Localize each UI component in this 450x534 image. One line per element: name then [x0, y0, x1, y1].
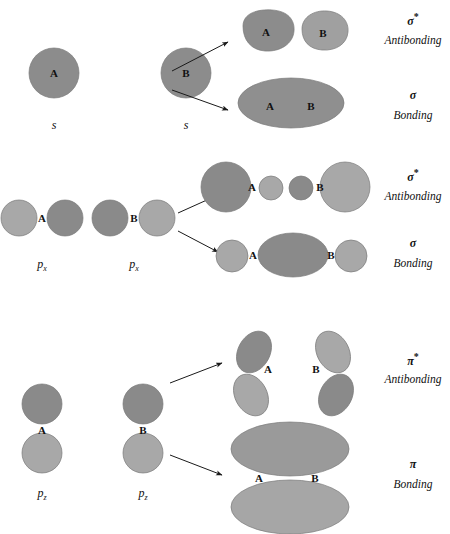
pz-antibonding-b-bottom-lobe	[312, 368, 361, 422]
s-bonding-lobe	[238, 78, 344, 128]
label-s-antibonding-a: A	[262, 26, 270, 38]
label-s-atom-a: A	[50, 67, 58, 79]
row-pz-arrows	[170, 363, 222, 475]
pz-orbital-a-bottom-lobe	[22, 433, 62, 473]
label-bonding-px: Bonding	[394, 257, 433, 269]
row-pz-bonding-mo	[231, 422, 349, 534]
caption-s-orbital-a: s	[52, 118, 57, 133]
label-pi-pz: π	[410, 457, 417, 472]
px-antibonding-a-outer-lobe	[201, 162, 251, 212]
label-antibonding-pz: Antibonding	[385, 373, 442, 385]
px-antibonding-b-outer-lobe	[320, 162, 370, 212]
px-antibonding-b-inner-lobe	[289, 176, 313, 200]
label-s-antibonding-b: B	[319, 27, 327, 39]
caption-px-orbital-a: px	[37, 257, 47, 273]
arrow-pz-antibonding	[170, 363, 222, 383]
arrow-pz-bonding	[170, 455, 222, 475]
px-bonding-b-outer-lobe	[335, 240, 367, 272]
label-bonding-s: Bonding	[394, 109, 433, 121]
label-pz-antibonding-a: A	[264, 363, 272, 375]
caption-px-orbital-b: px	[129, 257, 139, 273]
px-orbital-b-left-lobe	[92, 200, 128, 236]
pz-a-subscript: z	[43, 493, 46, 502]
label-sigma-s: σ	[410, 88, 416, 103]
px-orbital-b-right-lobe	[139, 200, 175, 236]
label-pi-star-pz: π*	[407, 351, 419, 369]
row-px-antibonding-mo	[201, 162, 370, 212]
sigma-glyph: σ	[410, 236, 416, 250]
pz-b-subscript: z	[144, 493, 147, 502]
pz-orbital-b-bottom-lobe	[123, 433, 163, 473]
arrow-px-bonding	[178, 231, 218, 252]
label-px-antibonding-b: B	[316, 181, 324, 193]
label-s-atom-b: B	[182, 67, 190, 79]
pz-bonding-bottom-lobe	[231, 480, 349, 534]
label-pz-bonding-b: B	[311, 472, 319, 484]
label-px-antibonding-a: A	[248, 181, 256, 193]
row-s-bonding-mo	[238, 78, 344, 128]
pz-bonding-top-lobe	[231, 422, 349, 476]
label-px-atom-a: A	[38, 212, 46, 224]
star-glyph: *	[414, 167, 419, 178]
label-pz-antibonding-b: B	[312, 363, 320, 375]
label-bonding-pz: Bonding	[394, 478, 433, 490]
label-antibonding-px: Antibonding	[385, 190, 442, 202]
pz-antibonding-a-bottom-lobe	[227, 368, 276, 422]
row-px-bonding-mo	[216, 233, 367, 277]
label-px-bonding-b: B	[327, 249, 335, 261]
row-s-antibonding-mo	[243, 10, 348, 51]
label-pz-atom-a: A	[38, 424, 46, 436]
label-sigma-star-px: σ*	[407, 167, 418, 185]
sigma-glyph: σ	[410, 88, 416, 102]
px-bonding-a-outer-lobe	[216, 240, 248, 272]
orbital-diagram	[0, 0, 450, 534]
label-pz-atom-b: B	[139, 424, 147, 436]
pi-glyph: π	[410, 457, 417, 471]
px-b-subscript: x	[135, 264, 139, 273]
px-bonding-central-lobe	[258, 233, 328, 277]
row-px-atomic-orbitals	[1, 200, 175, 236]
label-antibonding-s: Antibonding	[385, 34, 442, 46]
pz-orbital-b-top-lobe	[123, 384, 163, 424]
pz-orbital-a-top-lobe	[22, 384, 62, 424]
label-px-bonding-a: A	[249, 249, 257, 261]
label-sigma-px: σ	[410, 236, 416, 251]
caption-s-orbital-b: s	[184, 118, 189, 133]
caption-pz-orbital-b: pz	[138, 486, 147, 502]
label-sigma-star-s: σ*	[407, 11, 418, 29]
px-a-subscript: x	[43, 264, 47, 273]
label-px-atom-b: B	[130, 212, 138, 224]
caption-pz-orbital-a: pz	[37, 486, 46, 502]
label-pz-bonding-a: A	[255, 472, 263, 484]
px-antibonding-a-inner-lobe	[259, 176, 283, 200]
label-s-bonding-a: A	[266, 100, 274, 112]
star-glyph: *	[414, 351, 419, 362]
star-glyph: *	[414, 11, 419, 22]
row-pz-antibonding-mo	[227, 325, 361, 422]
label-s-bonding-b: B	[307, 100, 315, 112]
px-orbital-a-right-lobe	[47, 200, 83, 236]
px-orbital-a-left-lobe	[1, 200, 37, 236]
